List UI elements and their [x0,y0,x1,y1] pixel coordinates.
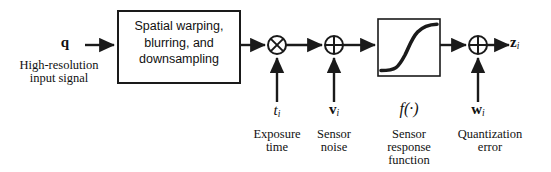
output-symbol-sub: i [517,41,520,51]
output-symbol-z: zi [510,35,544,52]
process-block-line2: blurring, and [118,35,240,52]
quantization-error-symbol-sub: i [482,108,485,118]
quantization-error-symbol: wi [456,102,500,119]
exposure-time-symbol-sub: i [278,109,281,119]
sensor-response-symbol-text: f(·) [399,100,418,117]
quantization-error-label-line2: error [442,141,538,154]
exposure-time-symbol: ti [255,103,299,120]
sensor-noise-label-line2: noise [300,141,368,154]
quantization-error-symbol-base: w [471,101,482,117]
sensor-noise-symbol: vi [312,102,356,119]
sensor-response-symbol: f(·) [378,101,440,118]
process-block-line1: Spatial warping, [118,18,240,35]
sensor-noise-symbol-sub: i [336,108,339,118]
input-symbol-q: q [52,35,78,51]
output-symbol-base: z [510,34,517,50]
process-block-label: Spatial warping, blurring, and downsampl… [118,18,240,68]
sensor-response-label: Sensor response function [372,128,446,167]
input-signal-label: High-resolution input signal [0,59,118,85]
sensor-noise-label: Sensor noise [300,128,368,154]
process-block-line3: downsampling [118,51,240,68]
quantization-error-label: Quantization error [442,128,538,154]
sensor-response-label-line3: function [372,154,446,167]
block-diagram-figure: q High-resolution input signal Spatial w… [0,0,551,172]
input-signal-label-line2: input signal [0,72,118,85]
